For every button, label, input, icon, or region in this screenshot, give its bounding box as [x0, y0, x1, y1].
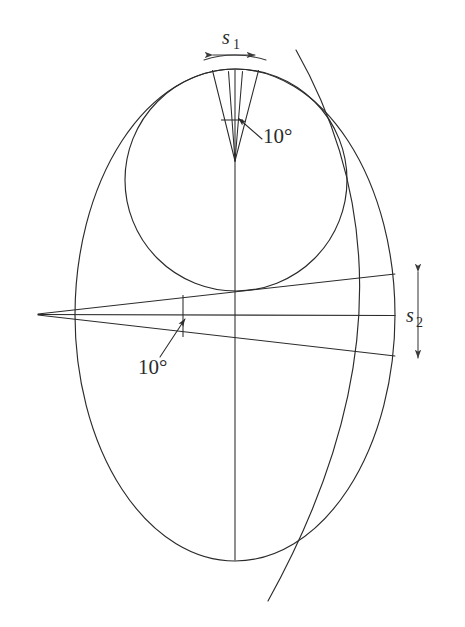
s1-label-subscript: 1 — [233, 37, 240, 52]
horizontal-axis-line — [38, 315, 395, 316]
side-wedge-lower-ray — [38, 315, 395, 356]
angle-label-bottom: 10° — [138, 355, 167, 379]
s1-label-base: s — [222, 26, 230, 48]
s2-label: s 2 — [406, 304, 423, 330]
s2-label-base: s — [406, 304, 414, 326]
s1-dimension — [204, 55, 266, 60]
s1-label: s 1 — [222, 26, 240, 52]
s1-dimension-bracket — [204, 55, 266, 60]
bottom-angle-leader — [160, 319, 185, 357]
geometry-diagram: 10° 10° s 1 s 2 — [0, 0, 465, 627]
figure-root: 10° 10° s 1 s 2 — [0, 0, 465, 627]
side-wedge-upper-ray — [38, 274, 395, 314]
s2-label-subscript: 2 — [416, 315, 423, 330]
inner-circle — [125, 69, 347, 291]
angle-label-top: 10° — [263, 124, 292, 148]
